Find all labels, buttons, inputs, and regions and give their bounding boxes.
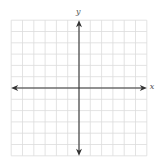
coordinate-plane [0, 0, 164, 167]
x-axis-label: x [150, 83, 155, 91]
y-axis-label: y [76, 8, 81, 16]
axes [11, 20, 147, 156]
